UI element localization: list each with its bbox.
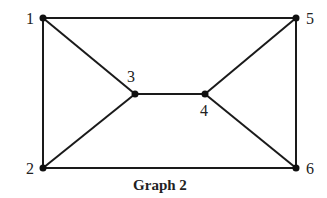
- node-label-4: 4: [200, 102, 208, 119]
- graph-caption: Graph 2: [133, 177, 187, 193]
- edge-4-6: [205, 94, 296, 168]
- node-label-2: 2: [26, 160, 34, 177]
- node-label-3: 3: [127, 68, 135, 85]
- edges: [43, 18, 296, 168]
- edge-4-5: [205, 18, 296, 94]
- node-label-1: 1: [26, 10, 34, 27]
- node-1: [40, 15, 47, 22]
- node-label-6: 6: [306, 160, 314, 177]
- edge-1-3: [43, 18, 135, 94]
- graph-svg: 123456 Graph 2: [0, 0, 327, 198]
- node-2: [40, 165, 47, 172]
- node-6: [293, 165, 300, 172]
- graph-diagram: 123456 Graph 2: [0, 0, 327, 198]
- node-4: [202, 91, 209, 98]
- node-3: [132, 91, 139, 98]
- node-5: [293, 15, 300, 22]
- edge-2-3: [43, 94, 135, 168]
- node-label-5: 5: [306, 10, 314, 27]
